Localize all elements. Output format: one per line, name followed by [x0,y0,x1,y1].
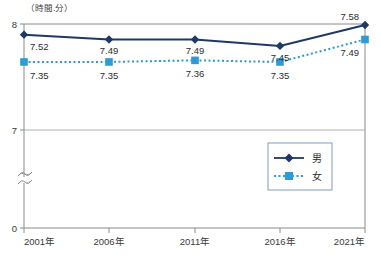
chart-svg: （時間.分） 8 7 0 [0,0,381,264]
legend: 男 女 [268,143,332,190]
data-label-female-1: 7.35 [100,70,119,81]
data-point-male-2 [191,35,199,43]
legend-label-female: 女 [312,170,322,182]
data-point-female-1 [105,58,113,66]
y-axis-unit-label: （時間.分） [26,3,73,13]
data-label-male-0: 7.52 [30,41,49,52]
x-tick-label-2006: 2006年 [93,236,124,247]
data-label-male-4: 7.58 [341,11,360,22]
line-chart: （時間.分） 8 7 0 [0,0,381,264]
y-tick-label-0: 0 [12,223,17,234]
data-label-layer: 7.527.497.497.457.587.357.357.367.357.49 [30,11,359,81]
y-tick-marks [20,24,24,228]
data-point-female-2 [191,57,199,65]
legend-box [268,143,332,190]
data-point-male-0 [20,30,28,38]
x-tick-marks [24,228,365,233]
x-tick-label-2001: 2001年 [24,236,55,247]
x-tick-label-2011: 2011年 [180,236,210,247]
data-label-male-3: 7.45 [271,52,290,63]
y-tick-label-7: 7 [12,125,17,136]
data-label-female-4: 7.49 [341,47,360,58]
data-point-male-4 [361,21,369,29]
series-layer [20,21,369,66]
data-point-female-4 [361,36,369,44]
x-tick-label-2016: 2016年 [264,236,295,247]
legend-label-male: 男 [312,153,322,164]
legend-marker-square-icon [285,172,293,180]
data-point-male-1 [105,35,113,43]
data-point-female-0 [20,58,28,66]
data-label-male-2: 7.49 [186,45,205,56]
data-label-male-1: 7.49 [100,45,119,56]
data-point-male-3 [276,42,284,50]
data-label-female-3: 7.35 [271,70,290,81]
y-axis-break-icon [18,172,32,184]
data-label-female-0: 7.35 [30,70,49,81]
x-tick-label-2021: 2021年 [334,236,365,247]
data-label-female-2: 7.36 [186,68,205,79]
y-tick-label-8: 8 [12,19,17,30]
